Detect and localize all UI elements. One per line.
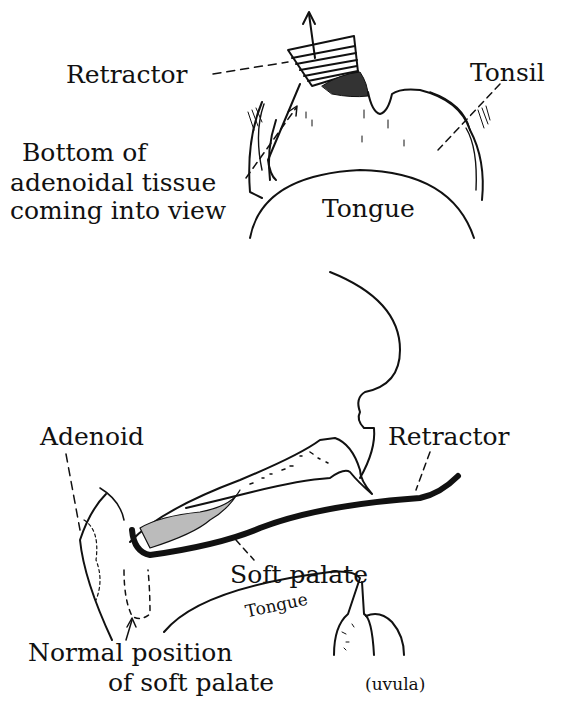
adenoid-outline: [80, 494, 112, 640]
label-normal-position-1: Normal position: [28, 640, 233, 665]
label-soft-palate: Soft palate: [230, 562, 368, 587]
label-retractor-top: Retractor: [66, 62, 188, 87]
label-uvula: (uvula): [365, 676, 425, 693]
label-tongue-top: Tongue: [322, 196, 415, 221]
label-normal-position-2: of soft palate: [108, 670, 274, 695]
label-adenoid-bottom-2: adenoidal tissue: [10, 170, 216, 195]
label-adenoid: Adenoid: [40, 424, 144, 449]
label-tonsil: Tonsil: [470, 60, 545, 85]
label-adenoid-bottom-3: coming into view: [10, 198, 226, 223]
label-adenoid-bottom-1: Bottom of: [22, 140, 147, 165]
label-retractor-side: Retractor: [388, 424, 510, 449]
